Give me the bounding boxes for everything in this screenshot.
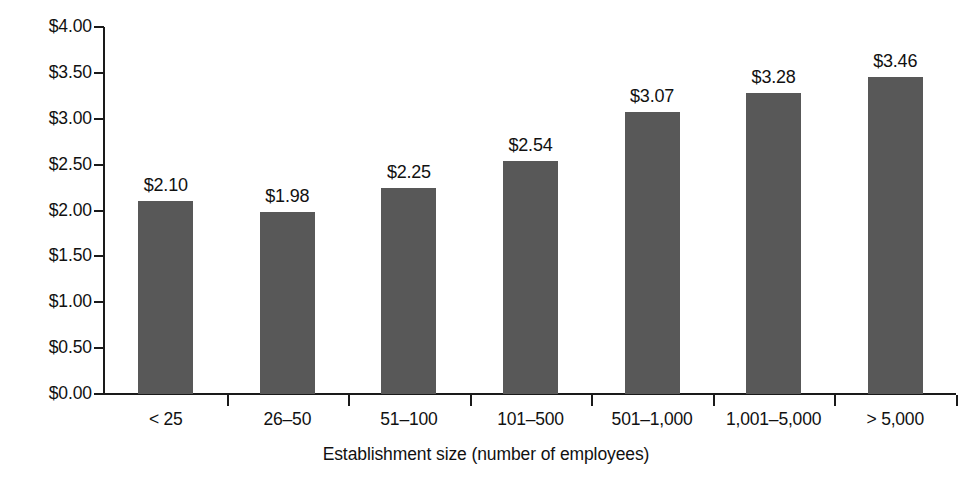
bar-chart: $0.00$0.50$1.00$1.50$2.00$2.50$3.00$3.50… xyxy=(0,0,972,492)
y-axis-tick-label-text: $3.50 xyxy=(6,64,92,82)
bar-value-label: $1.98 xyxy=(237,187,337,205)
plot-area: $2.10$1.98$2.25$2.54$3.07$3.28$3.46 xyxy=(105,27,956,394)
x-axis-category-label: 26–50 xyxy=(217,410,357,428)
y-axis-tick xyxy=(94,72,104,74)
y-axis-tick xyxy=(94,210,104,212)
x-axis-category-label: 51–100 xyxy=(339,410,479,428)
x-axis-tick xyxy=(227,395,229,406)
y-axis-tick-label: $3.50 xyxy=(0,64,92,82)
y-axis-tick-label-text: $4.00 xyxy=(6,18,92,36)
y-axis-tick-label-text: $3.00 xyxy=(6,110,92,128)
bar-value-label: $3.07 xyxy=(602,87,702,105)
bar-value-label: $2.10 xyxy=(116,176,216,194)
bar-value-label: $3.46 xyxy=(845,52,945,70)
x-axis-category-label: 501–1,000 xyxy=(582,410,722,428)
x-axis-category-label: 101–500 xyxy=(461,410,601,428)
y-axis-tick xyxy=(94,164,104,166)
y-axis-tick-label-text: $1.50 xyxy=(6,247,92,265)
bar xyxy=(503,161,558,394)
y-axis-tick-label: $4.00 xyxy=(0,18,92,36)
y-axis-tick xyxy=(94,26,104,28)
y-axis-tick-label: $2.00 xyxy=(0,202,92,220)
bar xyxy=(625,112,680,394)
y-axis-tick xyxy=(94,118,104,120)
x-axis-title: Establishment size (number of employees) xyxy=(0,444,972,464)
bar-value-label: $3.28 xyxy=(724,68,824,86)
bar-value-label: $2.54 xyxy=(481,136,581,154)
y-axis-tick-label: $0.00 xyxy=(0,385,92,403)
bar xyxy=(746,93,801,394)
y-axis-tick-label: $3.00 xyxy=(0,110,92,128)
x-axis-tick xyxy=(470,395,472,406)
y-axis-tick-label-text: $2.50 xyxy=(6,156,92,174)
x-axis-category-label: 1,001–5,000 xyxy=(704,410,844,428)
y-axis-tick xyxy=(94,301,104,303)
x-axis-tick xyxy=(713,395,715,406)
bar xyxy=(138,201,193,394)
x-axis-tick xyxy=(348,395,350,406)
x-axis-tick xyxy=(591,395,593,406)
y-axis-tick xyxy=(94,393,104,395)
bar xyxy=(381,188,436,394)
bar xyxy=(260,212,315,394)
x-axis-tick xyxy=(956,395,958,406)
y-axis-tick-label: $0.50 xyxy=(0,339,92,357)
y-axis-tick-label: $1.00 xyxy=(0,293,92,311)
x-axis-category-label: > 5,000 xyxy=(825,410,965,428)
y-axis-tick xyxy=(94,255,104,257)
x-axis-tick xyxy=(834,395,836,406)
y-axis-tick-label-text: $1.00 xyxy=(6,293,92,311)
y-axis-tick-label: $2.50 xyxy=(0,156,92,174)
y-axis-tick-label-text: $0.50 xyxy=(6,339,92,357)
bar xyxy=(868,77,923,394)
y-axis-tick-label-text: $2.00 xyxy=(6,202,92,220)
bar-value-label: $2.25 xyxy=(359,163,459,181)
y-axis-tick-label-text: $0.00 xyxy=(6,385,92,403)
y-axis-tick xyxy=(94,347,104,349)
y-axis-tick-label: $1.50 xyxy=(0,247,92,265)
x-axis-category-label: < 25 xyxy=(96,410,236,428)
